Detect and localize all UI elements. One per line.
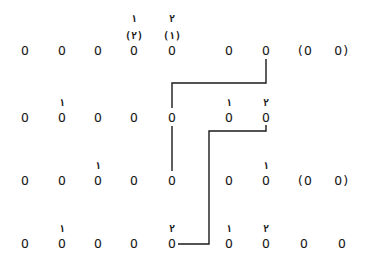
grid-cell: O (58, 237, 66, 250)
grid-cell: O (58, 174, 66, 187)
grid-cell: O (168, 174, 176, 187)
grid-cell: O (130, 111, 138, 124)
grid-cell: O (21, 111, 29, 124)
grid-cell: O (168, 44, 176, 57)
paren-mark: (٢) (125, 31, 143, 41)
grid-cell: O) (334, 44, 350, 57)
grid-cell: O (225, 174, 233, 187)
grid-cell: O (94, 237, 102, 250)
grid-cell: O (168, 111, 176, 124)
grid-cell: O (58, 111, 66, 124)
grid-cell: O (94, 111, 102, 124)
connector-line (178, 125, 266, 244)
grid-cell: O (21, 174, 29, 187)
grid-cell: O (225, 237, 233, 250)
grid-cell: O (262, 44, 270, 57)
grid-cell: O (262, 111, 270, 124)
top-mark: ٢ (263, 98, 269, 108)
grid-cell: O (130, 44, 138, 57)
top-mark: ١ (59, 224, 65, 234)
grid-cell: O (300, 237, 308, 250)
top-mark: ١ (131, 14, 137, 24)
grid-cell: O) (334, 174, 350, 187)
connector-lines (0, 0, 367, 265)
top-mark: ٢ (169, 14, 175, 24)
grid-cell: O (58, 44, 66, 57)
grid-cell: O (94, 44, 102, 57)
grid-cell: O (130, 174, 138, 187)
grid-cell: O (21, 44, 29, 57)
grid-cell: O (225, 111, 233, 124)
grid-cell: O (262, 174, 270, 187)
top-mark: ١ (226, 224, 232, 234)
top-mark: ٢ (169, 224, 175, 234)
paren-mark: (١) (163, 31, 181, 41)
top-mark: ١ (263, 161, 269, 171)
top-mark: ٢ (263, 224, 269, 234)
grid-cell: (O (296, 44, 312, 57)
grid-cell: O (94, 174, 102, 187)
grid-cell: O (168, 237, 176, 250)
grid-cell: O (21, 237, 29, 250)
top-mark: ١ (59, 98, 65, 108)
grid-cell: O (338, 237, 346, 250)
top-mark: ١ (95, 161, 101, 171)
grid-cell: O (130, 237, 138, 250)
top-mark: ١ (226, 98, 232, 108)
grid-cell: O (262, 237, 270, 250)
grid-cell: O (225, 44, 233, 57)
grid-cell: (O (296, 174, 312, 187)
connector-line (172, 59, 266, 108)
